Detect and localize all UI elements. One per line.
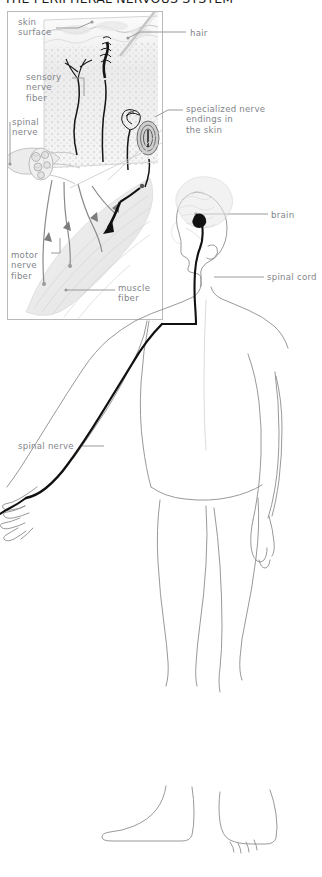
body-outline	[0, 192, 288, 853]
leader-lines	[8, 20, 268, 446]
body-figure-overlay	[0, 0, 322, 877]
nerve-pathway-highlight	[0, 213, 206, 514]
diagram-canvas: THE PERIPHERAL NERVOUS SYSTEM	[0, 0, 322, 877]
